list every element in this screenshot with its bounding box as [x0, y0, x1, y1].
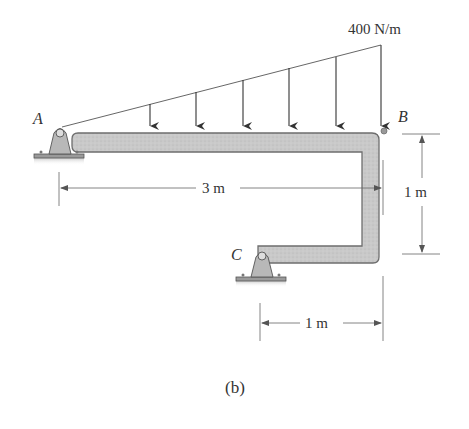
load-envelope-line — [62, 45, 381, 127]
dimension-label-3m: 3 m — [202, 180, 225, 196]
frame-diagram: 400 N/m A B C — [0, 0, 469, 429]
dimension-label-1m-horizontal: 1 m — [305, 315, 328, 331]
load-arrows — [150, 45, 381, 126]
pin-icon — [56, 129, 64, 137]
load-intensity-label: 400 N/m — [348, 21, 401, 37]
point-label-c: C — [231, 246, 242, 263]
pin-icon — [258, 252, 266, 260]
point-label-b: B — [398, 108, 408, 125]
frame-member — [72, 133, 379, 263]
figure-caption: (b) — [225, 378, 245, 397]
dimension-label-1m-vertical: 1 m — [404, 184, 427, 200]
point-label-a: A — [32, 110, 43, 127]
point-b-marker — [381, 128, 387, 134]
